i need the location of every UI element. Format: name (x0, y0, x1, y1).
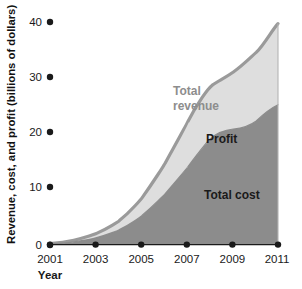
x-tick-dot-2009 (229, 241, 235, 247)
y-tick-label-0: 0 (36, 239, 42, 251)
y-tick-dot-30 (47, 74, 53, 80)
y-tick-dot-40 (47, 19, 53, 25)
y-tick-label-20: 20 (29, 126, 42, 138)
x-tick-dot-2003 (92, 241, 98, 247)
x-tick-label-2003: 2003 (83, 253, 109, 265)
x-tick-dot-2011 (275, 241, 281, 247)
y-tick-label-40: 40 (29, 16, 42, 28)
x-tick-label-2011: 2011 (265, 253, 290, 265)
x-tick-dot-2007 (184, 241, 190, 247)
total-revenue-label-line2: revenue (173, 99, 219, 113)
x-tick-dot-2005 (138, 241, 144, 247)
y-tick-label-30: 30 (29, 71, 42, 83)
total-revenue-label-line1: Total (173, 84, 201, 98)
profit-label: Profit (206, 132, 237, 146)
y-axis-title: Revenue, cost, and profit (billions of d… (5, 5, 17, 244)
x-tick-label-2005: 2005 (128, 253, 154, 265)
x-tick-label-2007: 2007 (174, 253, 200, 265)
x-axis-title: Year (38, 269, 63, 281)
x-tick-label-2001: 2001 (37, 253, 63, 265)
chart-container: Revenue, cost, and profit (billions of d… (0, 0, 302, 289)
area-chart: Revenue, cost, and profit (billions of d… (0, 0, 302, 289)
y-tick-dot-20 (47, 129, 53, 135)
total-cost-label: Total cost (204, 188, 260, 202)
y-tick-label-10: 10 (29, 181, 42, 193)
x-tick-label-2009: 2009 (220, 253, 246, 265)
x-tick-dot-2001 (47, 241, 53, 247)
y-tick-dot-10 (47, 184, 53, 190)
